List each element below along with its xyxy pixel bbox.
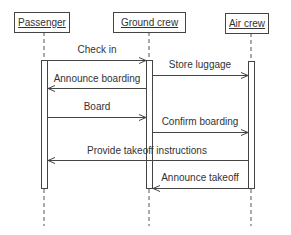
message-label: Announce boarding	[54, 73, 141, 84]
sequence-diagram: Passenger Ground crew Air crew Check in …	[0, 0, 291, 235]
message-label: Check in	[78, 44, 117, 55]
actor-label: Air crew	[229, 18, 266, 29]
actor-label: Ground crew	[121, 17, 179, 28]
activation-air-crew	[249, 62, 255, 189]
message-label: Store luggage	[169, 59, 232, 70]
actor-air-crew: Air crew	[226, 14, 269, 34]
actor-passenger: Passenger	[15, 13, 70, 33]
message-label: Announce takeoff	[161, 172, 239, 183]
message-label: Provide takeoff instructions	[87, 145, 207, 156]
message-label: Board	[84, 101, 111, 112]
message-label: Confirm boarding	[162, 116, 239, 127]
actor-ground-crew: Ground crew	[114, 13, 186, 33]
activation-passenger	[42, 61, 48, 189]
activation-ground-crew	[147, 61, 153, 189]
actor-label: Passenger	[18, 17, 66, 28]
